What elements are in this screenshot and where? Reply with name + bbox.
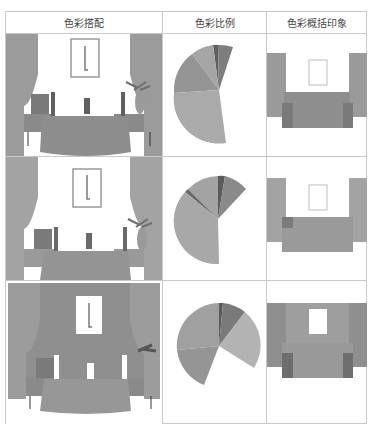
proportion-pie-3: [163, 281, 266, 424]
header-color-matching: 色彩搭配: [6, 12, 162, 33]
pie-chart-icon: [163, 281, 266, 424]
proportion-pie-2: [163, 157, 266, 280]
pie-chart-icon: [163, 157, 266, 280]
bedroom-scene-icon: [6, 157, 162, 280]
color-block-icon: [267, 157, 367, 280]
bedroom-illustration-2: [6, 157, 162, 280]
impression-block-1: [267, 34, 367, 156]
bedroom-scene-icon: [6, 34, 162, 156]
bedroom-illustration-1: [6, 34, 162, 156]
pie-chart-icon: [163, 34, 266, 156]
color-block-icon: [267, 281, 367, 424]
bedroom-illustration-3: [6, 281, 162, 424]
proportion-pie-1: [163, 34, 266, 156]
impression-block-3: [267, 281, 367, 424]
header-color-impression: 色彩概括印象: [267, 12, 367, 33]
impression-block-2: [267, 157, 367, 280]
header-color-proportion: 色彩比例: [163, 12, 266, 33]
color-scheme-table: 色彩搭配 色彩比例 色彩概括印象: [5, 11, 367, 424]
color-block-icon: [267, 34, 367, 156]
bedroom-scene-icon: [6, 281, 162, 424]
